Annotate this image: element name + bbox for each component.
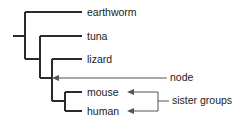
sister-groups-callout xyxy=(132,92,169,111)
taxon-label-mouse: mouse xyxy=(87,86,119,98)
taxon-label-tuna: tuna xyxy=(87,30,108,42)
node-callout-arrowhead xyxy=(52,75,59,81)
cladogram-figure: earthworm tuna lizard mouse human node s… xyxy=(0,0,238,125)
sister-groups-callout-label: sister groups xyxy=(172,94,232,106)
taxon-label-earthworm: earthworm xyxy=(87,6,137,18)
tree-branches xyxy=(13,12,82,111)
taxon-label-lizard: lizard xyxy=(87,53,112,65)
cladogram-diagram: earthworm tuna lizard mouse human node s… xyxy=(0,0,238,125)
taxon-label-human: human xyxy=(87,105,119,117)
sister-groups-arrowhead-human xyxy=(127,108,134,114)
node-callout-label: node xyxy=(170,71,194,83)
sister-groups-arrowhead-mouse xyxy=(127,89,134,95)
